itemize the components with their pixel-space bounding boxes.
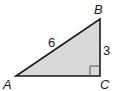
triangle-abc [16, 19, 100, 76]
side-label-bc: 3 [103, 43, 110, 58]
side-label-ab: 6 [48, 35, 55, 50]
triangle-diagram: A B C 6 3 [0, 0, 116, 91]
vertex-label-a: A [2, 77, 12, 91]
vertex-label-c: C [100, 77, 110, 91]
vertex-label-b: B [94, 2, 103, 17]
